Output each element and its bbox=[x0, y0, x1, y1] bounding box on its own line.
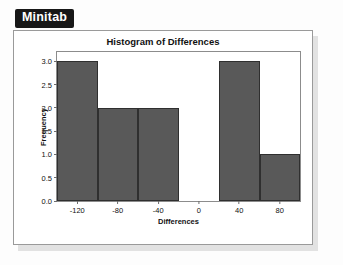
histogram-bars bbox=[57, 52, 300, 201]
histogram-bin bbox=[179, 52, 220, 201]
y-tick-label: 0.0 bbox=[42, 197, 57, 206]
plot-area: Frequency 0.00.51.01.52.02.53.0 -120-80-… bbox=[56, 51, 301, 202]
x-tick-label: 0 bbox=[197, 201, 201, 215]
y-tick-label: 3.0 bbox=[42, 57, 57, 66]
x-tick-label: 40 bbox=[235, 201, 243, 215]
y-tick-label: 1.5 bbox=[42, 127, 57, 136]
figure-panel: Histogram of Differences Frequency 0.00.… bbox=[13, 30, 313, 245]
histogram-bar bbox=[260, 154, 301, 201]
x-tick-label: -40 bbox=[153, 201, 164, 215]
histogram-bin bbox=[98, 52, 139, 201]
y-tick-label: 0.5 bbox=[42, 173, 57, 182]
histogram-bin bbox=[57, 52, 98, 201]
x-axis-ticks: -120-80-4004080 bbox=[57, 201, 300, 215]
x-tick-label: -120 bbox=[70, 201, 85, 215]
histogram-bar bbox=[98, 108, 139, 201]
histogram-bar bbox=[219, 61, 260, 201]
y-tick-label: 2.0 bbox=[42, 103, 57, 112]
histogram-bin bbox=[138, 52, 179, 201]
histogram-bar bbox=[138, 108, 179, 201]
histogram-bin bbox=[219, 52, 260, 201]
y-tick-label: 2.5 bbox=[42, 80, 57, 89]
histogram-bin bbox=[260, 52, 301, 201]
histogram-bar bbox=[57, 61, 98, 201]
x-tick-label: 80 bbox=[276, 201, 284, 215]
minitab-badge: Minitab bbox=[15, 9, 74, 28]
x-tick-label: -80 bbox=[112, 201, 123, 215]
x-axis-title: Differences bbox=[57, 217, 300, 226]
chart-title: Histogram of Differences bbox=[14, 36, 312, 47]
y-tick-label: 1.0 bbox=[42, 150, 57, 159]
